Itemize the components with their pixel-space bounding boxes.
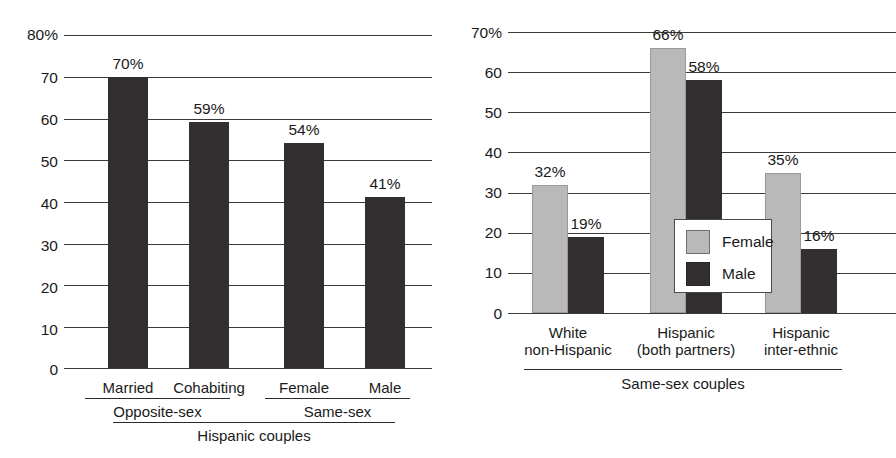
group-rule-same-sex — [265, 398, 410, 399]
bar-married — [108, 77, 148, 368]
group-rule-hispanic-couples — [113, 422, 395, 423]
bar-white-female — [532, 185, 568, 313]
left-ytick-10: 10 — [2, 322, 58, 338]
left-ytick-30: 30 — [2, 238, 58, 254]
bar-value-white-male: 19% — [546, 216, 626, 232]
left-ytick-70: 70 — [2, 70, 58, 86]
cat-label-hispanic-inter-line1: Hispanic — [772, 324, 830, 341]
bar-value-cohabiting: 59% — [169, 101, 249, 117]
bar-value-male: 41% — [345, 176, 425, 192]
bar-value-hispanic-both-male: 58% — [664, 59, 744, 75]
left-axis-baseline — [64, 368, 432, 369]
legend-label-female: Female — [722, 233, 774, 251]
group-label-opposite-sex: Opposite-sex — [85, 404, 230, 419]
legend-label-male: Male — [722, 265, 756, 283]
bar-value-married: 70% — [88, 56, 168, 72]
cat-label-white-non-hispanic: White non-Hispanic — [510, 325, 626, 359]
right-ytick-10: 10 — [448, 265, 502, 281]
group-rule-opposite-sex — [85, 398, 230, 399]
right-ytick-30: 30 — [448, 185, 502, 201]
right-ytick-70: 70% — [448, 25, 502, 41]
legend-swatch-male-icon — [686, 262, 710, 286]
cat-label-hispanic-inter-line2: inter-ethnic — [764, 341, 838, 358]
axis-title-same-sex-couples: Same-sex couples — [524, 376, 842, 391]
bar-value-hispanic-inter-female: 35% — [743, 152, 823, 168]
right-ytick-50: 50 — [448, 105, 502, 121]
cat-label-hispanic-both-line1: Hispanic — [657, 324, 715, 341]
bar-male — [365, 197, 405, 368]
cat-label-cohabiting: Cohabiting — [157, 380, 261, 397]
right-chart-panel: 70% 60 50 40 30 20 10 0 32% 19% 66% 58% … — [448, 0, 896, 458]
left-ytick-40: 40 — [2, 196, 58, 212]
right-ytick-60: 60 — [448, 65, 502, 81]
cat-label-hispanic-both-line2: (both partners) — [637, 341, 735, 358]
left-ytick-0: 0 — [2, 362, 58, 378]
left-gridline-80 — [64, 35, 432, 36]
bar-value-hispanic-inter-male: 16% — [779, 228, 859, 244]
bar-value-hispanic-both-female: 66% — [628, 27, 708, 43]
axis-title-hispanic-couples: Hispanic couples — [113, 428, 395, 443]
group-rule-same-sex-couples — [524, 369, 842, 370]
bar-cohabiting — [189, 122, 229, 368]
bar-value-white-female: 32% — [510, 164, 590, 180]
legend-swatch-female-icon — [686, 230, 710, 254]
left-ytick-80: 80% — [2, 27, 58, 43]
bar-value-female: 54% — [264, 122, 344, 138]
legend-item-male[interactable]: Male — [686, 262, 756, 286]
left-chart-panel: 80% 70 60 50 40 30 20 10 0 70% 59% 54% 4… — [0, 0, 448, 458]
right-ytick-20: 20 — [448, 225, 502, 241]
right-axis-baseline — [508, 313, 896, 314]
right-ytick-0: 0 — [448, 306, 502, 322]
right-ytick-40: 40 — [448, 145, 502, 161]
cat-label-white-line1: White — [549, 324, 587, 341]
group-label-same-sex: Same-sex — [265, 404, 410, 419]
bar-white-male — [568, 237, 604, 313]
legend-item-female[interactable]: Female — [686, 230, 774, 254]
figure-two-panel-bar-charts: 80% 70 60 50 40 30 20 10 0 70% 59% 54% 4… — [0, 0, 896, 458]
bar-female — [284, 143, 324, 368]
cat-label-hispanic-inter: Hispanic inter-ethnic — [743, 325, 859, 359]
cat-label-hispanic-both: Hispanic (both partners) — [622, 325, 750, 359]
legend[interactable]: Female Male — [674, 219, 772, 293]
left-ytick-20: 20 — [2, 280, 58, 296]
cat-label-male: Male — [333, 380, 437, 397]
left-ytick-50: 50 — [2, 154, 58, 170]
bar-hispanic-inter-male — [801, 249, 837, 313]
left-ytick-60: 60 — [2, 112, 58, 128]
cat-label-white-line2: non-Hispanic — [524, 341, 612, 358]
